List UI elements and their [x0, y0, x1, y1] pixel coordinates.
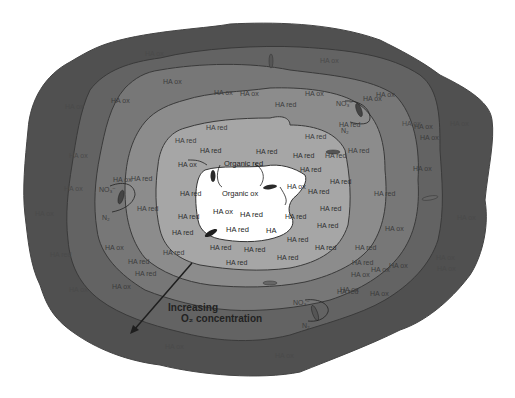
zone-label: HA red [320, 205, 341, 212]
zone-label: HA ox [287, 183, 306, 190]
zone-label: HA ox [437, 265, 456, 272]
zone-label: HA ox [112, 283, 131, 290]
zone-label: HA red [352, 259, 373, 266]
zone-label: HA ox [64, 185, 83, 192]
zone-label: HA ox [340, 286, 359, 293]
zone-label: HA red [330, 178, 351, 185]
zone-label: HA red [315, 244, 336, 251]
zone-label: HA ox [163, 78, 182, 85]
nitrogen-label: N₂ [102, 214, 110, 221]
zone-label: HA ox [105, 244, 124, 251]
soil-aggregate-diagram: Organic red Organic ox HA ox HA red HA r… [0, 0, 515, 398]
zone-label: HA ox [385, 225, 404, 232]
zone-label: HA ox [145, 50, 164, 57]
zone-label: HA ox [320, 57, 339, 64]
zone-label: HA ox [376, 91, 395, 98]
zone-label: HA red [300, 166, 321, 173]
nitrogen-label: N₂ [302, 322, 310, 329]
zone-label: HA ox [275, 352, 294, 359]
zone-label: HA red [287, 236, 308, 243]
zone-label: HA ox [457, 214, 476, 221]
zone-label: HA red [355, 244, 376, 251]
zone-label: HA red [256, 148, 277, 155]
zone-label: HA red [163, 249, 184, 256]
zone-label: HA red [317, 222, 338, 229]
zone-label: HA red [210, 244, 231, 251]
zone-label: HA red [275, 101, 296, 108]
zone-label: HA red [325, 152, 346, 159]
particle-icon [269, 54, 273, 68]
zone-label: HA ox [413, 165, 432, 172]
zone-label: HA red [308, 188, 329, 195]
zone-label: HA ox [389, 262, 408, 269]
zone-label: HA ox [111, 97, 130, 104]
zone-label: HA red [200, 147, 221, 154]
zone-label: HA ox [402, 120, 421, 127]
zone-label: HA red [175, 137, 196, 144]
particle-icon [211, 170, 216, 182]
zone-label: HA red [226, 259, 247, 266]
o2-gradient-annotation: Increasing O₂ concentration [168, 302, 262, 324]
zone-label: HA red [206, 124, 227, 131]
zone-label: HA ox [178, 161, 197, 168]
zone-label: HA ox [165, 343, 184, 350]
zone-label: HA ox [240, 90, 259, 97]
zone-label: HA ox [436, 254, 455, 261]
nitrogen-label: NO₃⁻ [336, 100, 353, 107]
annotation-line-1: Increasing [168, 302, 262, 313]
zone-label: HA red [244, 246, 265, 253]
zone-label: HA ox [351, 271, 370, 278]
zone-label: HA ox [305, 90, 324, 97]
zone-label: HA red [374, 190, 395, 197]
zone-layers [0, 0, 515, 398]
zone-label: HA ox [214, 89, 233, 96]
zone-label: HA red [50, 251, 71, 258]
zone-label: HA red [285, 213, 306, 220]
zone-label: HA red [135, 270, 156, 277]
label-ha-red-core: HA red [240, 211, 263, 219]
zone-label: HA ox [35, 210, 54, 217]
zone-label: HA ox [65, 103, 84, 110]
zone-label: HA red [131, 175, 152, 182]
zone-label: HA red [128, 258, 149, 265]
zone-label: HA red [305, 133, 326, 140]
nitrogen-label: NO₃⁻ [293, 299, 310, 306]
zone-label: HA red [277, 254, 298, 261]
zone-label: HA ox [69, 286, 88, 293]
zone-label: HA red [180, 190, 201, 197]
zone-label: HA red [178, 213, 199, 220]
zone-label: HA ox [113, 176, 132, 183]
label-organic-red: Organic red [224, 160, 263, 168]
zone-label: HA red [293, 152, 314, 159]
zone-label: HA ox [420, 134, 439, 141]
zone-label: HA ox [370, 290, 389, 297]
label-organic-ox: Organic ox [222, 190, 258, 198]
nitrogen-label: NO₃⁻ [99, 186, 116, 193]
annotation-line-2: O₂ concentration [168, 313, 262, 324]
zone-label: HA red [348, 147, 369, 154]
nitrogen-label: N₂ [341, 127, 349, 134]
label-ha-core: HA [266, 227, 276, 235]
label-ha-red-core: HA red [226, 226, 249, 234]
particle-icon [263, 281, 277, 285]
zone-label: HA ox [371, 266, 390, 273]
zone-label: HA ox [69, 152, 88, 159]
label-ha-ox-core: HA ox [213, 208, 233, 216]
zone-label: HA ox [450, 120, 469, 127]
zone-label: HA red [172, 229, 193, 236]
zone-label: HA red [137, 205, 158, 212]
